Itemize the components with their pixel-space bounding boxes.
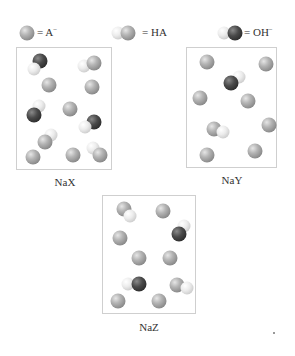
a-minus-sphere-icon <box>200 55 215 70</box>
panel-nax-label: NaX <box>55 176 76 188</box>
a-minus-sphere-icon <box>262 118 277 133</box>
a-minus-sphere-icon <box>259 57 274 72</box>
legend-a-charge: − <box>53 26 57 34</box>
ha-hydrogen-sphere-icon <box>181 282 194 295</box>
a-minus-sphere-icon <box>200 148 215 163</box>
a-minus-sphere-icon <box>42 78 57 93</box>
legend-oh-minus: = OH− <box>244 26 273 38</box>
oh-oxygen-sphere-icon <box>172 227 187 242</box>
oh-oxygen-sphere-icon <box>228 26 243 41</box>
ha-hydrogen-sphere-icon <box>124 210 137 223</box>
a-minus-sphere-icon <box>113 231 128 246</box>
a-minus-sphere-icon <box>156 204 171 219</box>
a-minus-sphere-icon <box>85 80 100 95</box>
a-minus-sphere-icon <box>152 294 167 309</box>
a-minus-sphere-icon <box>20 26 35 41</box>
panel-naz-label: NaZ <box>139 321 159 333</box>
a-minus-sphere-icon <box>248 144 263 159</box>
ha-a-sphere-icon <box>87 56 102 71</box>
oh-oxygen-sphere-icon <box>224 76 239 91</box>
diagram-stage: = A− = HA = OH− NaX <box>0 0 295 356</box>
legend-oh-prefix: = <box>244 26 253 38</box>
a-minus-sphere-icon <box>132 251 147 266</box>
legend-ha: = HA <box>142 26 167 38</box>
stray-dot <box>273 332 275 334</box>
oh-hydrogen-sphere-icon <box>79 121 92 134</box>
legend-a-minus: = A− <box>37 26 57 38</box>
oh-hydrogen-sphere-icon <box>28 63 41 76</box>
legend-oh-charge: − <box>269 26 273 34</box>
a-minus-sphere-icon <box>66 148 81 163</box>
panel-nay-label: NaY <box>222 174 243 186</box>
a-minus-sphere-icon <box>193 91 208 106</box>
oh-oxygen-sphere-icon <box>27 108 42 123</box>
ha-hydrogen-sphere-icon <box>217 126 230 139</box>
ha-a-sphere-icon <box>121 26 136 41</box>
oh-oxygen-sphere-icon <box>132 277 147 292</box>
a-minus-sphere-icon <box>26 150 41 165</box>
a-minus-sphere-icon <box>111 294 126 309</box>
ha-a-sphere-icon <box>38 135 53 150</box>
ha-a-sphere-icon <box>93 148 108 163</box>
a-minus-sphere-icon <box>163 251 178 266</box>
legend-oh-symbol: OH <box>253 26 269 38</box>
a-minus-sphere-icon <box>241 94 256 109</box>
a-minus-sphere-icon <box>63 102 78 117</box>
